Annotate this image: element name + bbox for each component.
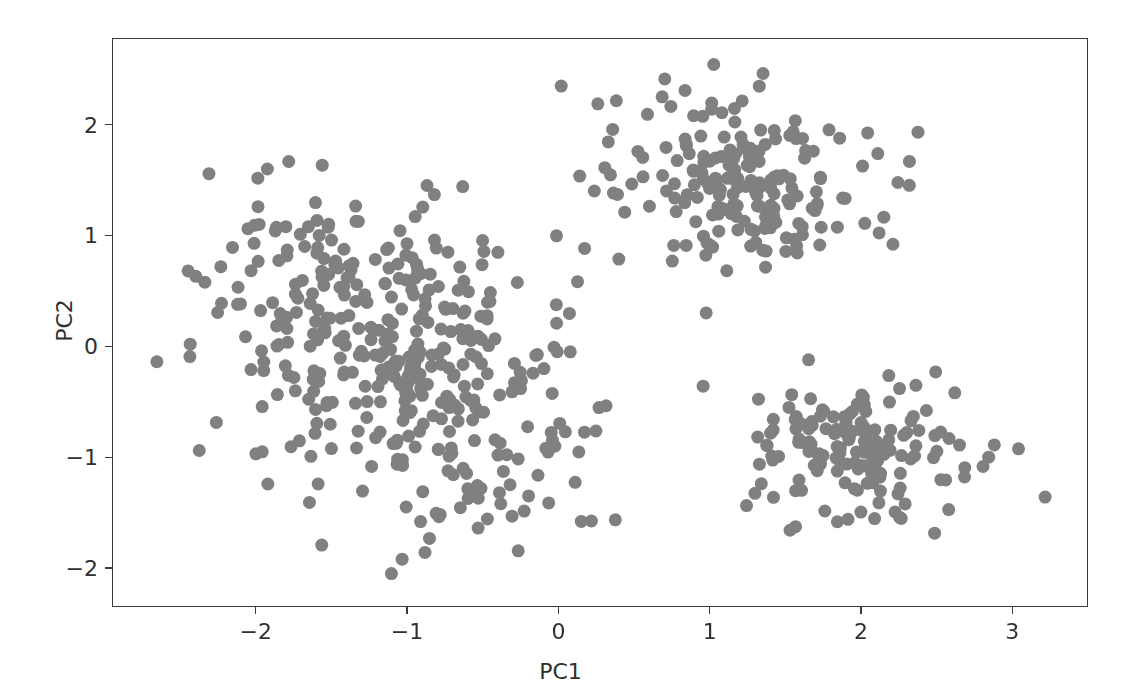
x-axis-label: PC1: [0, 659, 1121, 684]
x-tick-mark: [406, 607, 407, 614]
x-tick-mark: [255, 607, 256, 614]
plot-area: [112, 38, 1088, 607]
y-tick-mark: [105, 235, 112, 236]
y-tick-mark: [105, 457, 112, 458]
y-tick-label: 1: [84, 223, 98, 248]
y-tick-label: −2: [66, 556, 98, 581]
x-tick-label: −2: [240, 619, 272, 644]
y-tick-mark: [105, 124, 112, 125]
x-tick-label: 3: [1005, 619, 1019, 644]
y-tick-mark: [105, 346, 112, 347]
x-tick-mark: [1012, 607, 1013, 614]
x-tick-mark: [558, 607, 559, 614]
x-tick-mark: [860, 607, 861, 614]
y-tick-label: 2: [84, 112, 98, 137]
x-tick-label: 1: [703, 619, 717, 644]
x-tick-label: −1: [391, 619, 423, 644]
y-tick-label: 0: [84, 334, 98, 359]
y-axis-label: PC2: [52, 290, 77, 350]
y-tick-label: −1: [66, 445, 98, 470]
x-tick-label: 2: [854, 619, 868, 644]
figure-canvas: −2−10123 −2−1012 PC1 PC2: [0, 0, 1121, 700]
y-tick-mark: [105, 567, 112, 568]
x-tick-label: 0: [551, 619, 565, 644]
scatter-points-layer: [113, 39, 1089, 608]
x-tick-mark: [709, 607, 710, 614]
